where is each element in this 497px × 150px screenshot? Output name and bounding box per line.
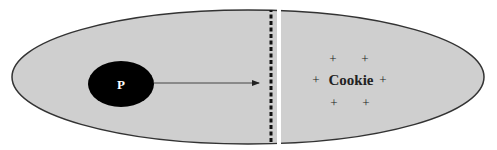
plus-mark: + xyxy=(379,72,386,87)
plus-mark: + xyxy=(312,72,319,87)
plus-mark: + xyxy=(362,95,369,110)
cell-ellipse xyxy=(12,10,484,144)
membrane-gap xyxy=(277,5,281,150)
plus-mark: + xyxy=(361,51,368,66)
cookie-label: Cookie xyxy=(329,72,374,88)
particle-label: P xyxy=(117,77,125,92)
plus-mark: + xyxy=(329,51,336,66)
plus-mark: + xyxy=(330,95,337,110)
diagram-canvas: P Cookie + + + + + + xyxy=(0,0,497,150)
